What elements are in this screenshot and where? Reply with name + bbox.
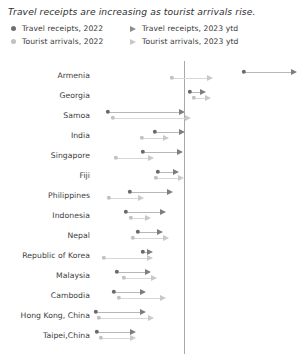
data-point-tourist-arrivals-2022 (102, 256, 106, 260)
connector-line (109, 198, 139, 199)
y-axis-label-malaysia: Malaysia (0, 271, 90, 280)
connector-line (155, 132, 180, 133)
connector-line (130, 192, 168, 193)
data-point-tourist-arrivals-2023-ytd (138, 195, 144, 201)
data-point-travel-receipts-2022 (141, 150, 145, 154)
connector-line (138, 232, 158, 233)
connector-line (133, 238, 164, 239)
data-point-tourist-arrivals-2022 (99, 336, 103, 340)
connector-line (117, 272, 146, 273)
y-axis-label-hong-kong-china: Hong Kong, China (0, 311, 90, 320)
circle-dot-icon (10, 25, 17, 32)
data-point-tourist-arrivals-2022 (131, 236, 135, 240)
legend-item-travel-receipts-2022[interactable]: Travel receipts, 2022 (10, 24, 103, 33)
data-point-travel-receipts-2023-ytd (140, 289, 146, 295)
legend-item-tourist-arrivals-2023-ytd[interactable]: Tourist arrivals, 2023 ytd (130, 37, 238, 46)
data-point-tourist-arrivals-2023-ytd (147, 255, 153, 261)
legend-label: Travel receipts, 2022 (22, 24, 103, 33)
y-axis-label-singapore: Singapore (0, 151, 90, 160)
data-point-tourist-arrivals-2023-ytd (148, 315, 154, 321)
connector-line (142, 138, 164, 139)
data-point-travel-receipts-2022 (128, 190, 132, 194)
y-axis-label-fiji: Fiji (0, 171, 90, 180)
data-point-tourist-arrivals-2023-ytd (151, 275, 157, 281)
connector-line (156, 178, 179, 179)
connector-line (101, 338, 131, 339)
legend-item-travel-receipts-2023-ytd[interactable]: Travel receipts, 2023 ytd (130, 24, 238, 33)
data-point-tourist-arrivals-2022 (122, 276, 126, 280)
connector-line (131, 218, 146, 219)
data-point-travel-receipts-2022 (115, 270, 119, 274)
data-point-tourist-arrivals-2022 (117, 296, 121, 300)
y-axis-label-samoa: Samoa (0, 111, 90, 120)
data-point-travel-receipts-2022 (106, 110, 110, 114)
connector-line (172, 78, 208, 79)
chart-legend: Travel receipts, 2022 Tourist arrivals, … (8, 24, 300, 52)
data-point-tourist-arrivals-2023-ytd (178, 175, 184, 181)
data-point-tourist-arrivals-2022 (111, 116, 115, 120)
y-axis-label-taipei-china: Taipei,China (0, 331, 90, 340)
data-point-travel-receipts-2023-ytd (177, 149, 183, 155)
data-point-tourist-arrivals-2023-ytd (130, 335, 136, 341)
y-axis-label-armenia: Armenia (0, 71, 90, 80)
data-point-tourist-arrivals-2023-ytd (160, 295, 166, 301)
connector-line (116, 158, 149, 159)
connector-line (158, 172, 174, 173)
y-axis-label-nepal: Nepal (0, 231, 90, 240)
data-point-travel-receipts-2023-ytd (291, 69, 297, 75)
chart-title: Travel receipts are increasing as touris… (8, 6, 298, 18)
data-point-tourist-arrivals-2022 (140, 136, 144, 140)
data-point-tourist-arrivals-2023-ytd (185, 115, 191, 121)
y-axis-label-indonesia: Indonesia (0, 211, 90, 220)
data-point-travel-receipts-2023-ytd (140, 309, 146, 315)
data-point-travel-receipts-2023-ytd (179, 129, 185, 135)
y-axis-label-cambodia: Cambodia (0, 291, 90, 300)
data-point-tourist-arrivals-2022 (114, 156, 118, 160)
data-point-travel-receipts-2022 (242, 70, 246, 74)
connector-line (113, 118, 186, 119)
reference-axis-line (184, 61, 185, 354)
data-point-travel-receipts-2023-ytd (167, 189, 173, 195)
data-point-tourist-arrivals-2022 (154, 176, 158, 180)
legend-item-tourist-arrivals-2022[interactable]: Tourist arrivals, 2022 (10, 37, 103, 46)
connector-line (143, 152, 178, 153)
data-point-tourist-arrivals-2023-ytd (205, 95, 211, 101)
connector-line (97, 332, 131, 333)
data-point-travel-receipts-2022 (94, 310, 98, 314)
connector-line (244, 72, 292, 73)
y-axis-label-india: India (0, 131, 90, 140)
connector-line (119, 298, 161, 299)
y-axis-label-georgia: Georgia (0, 91, 90, 100)
y-axis-label-philippines: Philippines (0, 191, 90, 200)
connector-line (99, 318, 149, 319)
data-point-travel-receipts-2022 (136, 230, 140, 234)
data-point-tourist-arrivals-2022 (107, 196, 111, 200)
connector-line (104, 258, 148, 259)
connector-line (96, 312, 141, 313)
arrow-right-icon (130, 25, 137, 32)
data-point-travel-receipts-2023-ytd (160, 209, 166, 215)
data-point-travel-receipts-2022 (112, 290, 116, 294)
data-point-tourist-arrivals-2023-ytd (145, 215, 151, 221)
data-point-travel-receipts-2022 (141, 250, 145, 254)
connector-line (108, 112, 180, 113)
circle-dot-icon (10, 38, 17, 45)
data-point-travel-receipts-2022 (153, 130, 157, 134)
data-point-tourist-arrivals-2022 (192, 96, 196, 100)
data-point-tourist-arrivals-2022 (170, 76, 174, 80)
legend-label: Travel receipts, 2023 ytd (142, 24, 238, 33)
data-point-tourist-arrivals-2022 (129, 216, 133, 220)
data-point-tourist-arrivals-2023-ytd (207, 75, 213, 81)
legend-label: Tourist arrivals, 2023 ytd (142, 37, 238, 46)
data-point-tourist-arrivals-2022 (97, 316, 101, 320)
connector-line (114, 292, 141, 293)
data-point-tourist-arrivals-2023-ytd (163, 135, 169, 141)
connector-line (124, 278, 152, 279)
connector-line (126, 212, 161, 213)
data-point-travel-receipts-2022 (156, 170, 160, 174)
y-axis-label-republic-of-korea: Republic of Korea (0, 251, 90, 260)
data-point-tourist-arrivals-2023-ytd (148, 155, 154, 161)
data-point-travel-receipts-2022 (95, 330, 99, 334)
plot-area: ArmeniaGeorgiaSamoaIndiaSingaporeFijiPhi… (0, 56, 303, 345)
